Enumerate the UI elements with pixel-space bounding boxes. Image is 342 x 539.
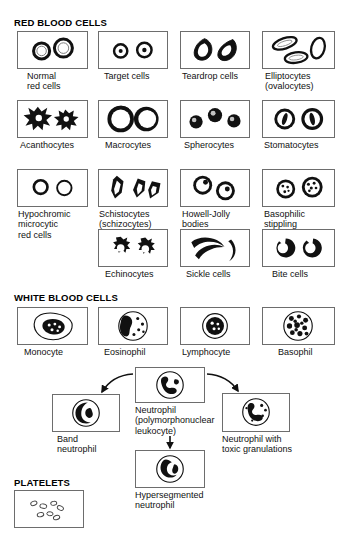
cell-box-teardrop-cells[interactable] [180, 31, 250, 69]
caption-hypochromic-microcytic-red-cells: Hypochromic microcytic red cells [18, 209, 98, 240]
hypochromic-icon [18, 170, 87, 206]
caption-stomatocytes: Stomatocytes [264, 140, 342, 150]
caption-target-cells: Target cells [104, 71, 174, 81]
cell-box-hypochromic-microcytic-red-cells[interactable] [17, 169, 88, 207]
caption-band-neutrophil: Band neutrophil [57, 434, 127, 455]
cell-box-neutrophil-toxic-granulations[interactable] [222, 393, 290, 432]
caption-macrocytes: Macrocytes [105, 140, 175, 150]
caption-spherocytes: Spherocytes [184, 140, 254, 150]
cell-box-echinocytes[interactable] [98, 229, 168, 267]
caption-neutrophil: Neutrophil (polymorphonuclear leukocyte) [135, 405, 225, 436]
cell-box-sickle-cells[interactable] [180, 229, 250, 267]
cell-box-platelets[interactable] [14, 490, 84, 528]
normal-rbc-icon [18, 32, 87, 68]
bite-cell-icon [263, 230, 334, 266]
spherocyte-icon [181, 101, 249, 137]
caption-lymphocyte: Lymphocyte [182, 347, 256, 357]
teardrop-cell-icon [181, 32, 249, 68]
cell-box-basophilic-stippling[interactable] [262, 169, 335, 207]
cell-box-macrocytes[interactable] [98, 100, 168, 138]
cell-box-eosinophil[interactable] [98, 307, 168, 345]
macrocyte-icon [99, 101, 167, 137]
echinocyte-icon [99, 230, 167, 266]
caption-acanthocytes: Acanthocytes [20, 140, 94, 150]
stomatocyte-icon [263, 101, 334, 137]
toxic-granulation-icon [223, 394, 289, 431]
caption-normal-red-cells: Normal red cells [27, 71, 93, 92]
caption-basophil: Basophil [278, 347, 342, 357]
caption-elliptocytes: Elliptocytes (ovalocytes) [265, 71, 341, 92]
caption-sickle-cells: Sickle cells [186, 269, 258, 279]
cell-box-stomatocytes[interactable] [262, 100, 335, 138]
arrow-to-band-neutrophil [102, 374, 133, 392]
cell-box-lymphocyte[interactable] [180, 307, 250, 345]
blood-cell-chart: RED BLOOD CELLS Normal red cells Target … [0, 0, 342, 539]
cell-box-hypersegmented-neutrophil[interactable] [135, 450, 205, 488]
schistocyte-icon [99, 170, 167, 206]
cell-box-basophil[interactable] [262, 307, 335, 345]
cell-box-schistocytes[interactable] [98, 169, 168, 207]
cell-box-elliptocytes[interactable] [262, 31, 335, 69]
elliptocyte-icon [263, 32, 334, 68]
caption-basophilic-stippling: Basophilic stippling [264, 209, 342, 230]
section-header-platelets: PLATELETS [14, 477, 70, 488]
cell-box-acanthocytes[interactable] [17, 100, 88, 138]
cell-box-howell-jolly-bodies[interactable] [180, 169, 250, 207]
cell-box-target-cells[interactable] [98, 31, 168, 69]
cell-box-spherocytes[interactable] [180, 100, 250, 138]
platelet-cluster-icon [15, 491, 83, 527]
howell-jolly-icon [181, 170, 249, 206]
monocyte-icon [18, 308, 87, 344]
lymphocyte-icon [181, 308, 249, 344]
section-header-white-blood-cells: WHITE BLOOD CELLS [14, 292, 118, 303]
cell-box-monocyte[interactable] [17, 307, 88, 345]
cell-box-normal-red-cells[interactable] [17, 31, 88, 69]
caption-neutrophil-toxic-granulations: Neutrophil with toxic granulations [222, 434, 332, 455]
caption-bite-cells: Bite cells [272, 269, 342, 279]
caption-teardrop-cells: Teardrop cells [182, 71, 254, 81]
neutrophil-icon [136, 368, 204, 402]
caption-echinocytes: Echinocytes [105, 269, 177, 279]
band-neutrophil-icon [53, 395, 119, 431]
hypersegmented-neutrophil-icon [136, 451, 204, 487]
basophilic-stippling-icon [263, 170, 334, 206]
eosinophil-icon [99, 308, 167, 344]
caption-hypersegmented-neutrophil: Hypersegmented neutrophil [135, 490, 235, 511]
acanthocyte-icon [18, 101, 87, 137]
cell-box-bite-cells[interactable] [262, 229, 335, 267]
sickle-cell-icon [181, 230, 249, 266]
caption-monocyte: Monocyte [24, 347, 96, 357]
caption-eosinophil: Eosinophil [104, 347, 176, 357]
section-header-red-blood-cells: RED BLOOD CELLS [14, 17, 107, 28]
caption-schistocytes: Schistocytes (schizocytes) [99, 209, 179, 230]
cell-box-band-neutrophil[interactable] [52, 394, 120, 432]
arrow-to-toxic-granulations [207, 374, 238, 391]
caption-howell-jolly-bodies: Howell-Jolly bodies [182, 209, 258, 230]
basophil-icon [263, 308, 334, 344]
cell-box-neutrophil[interactable] [135, 367, 205, 403]
target-cell-icon [99, 32, 167, 68]
